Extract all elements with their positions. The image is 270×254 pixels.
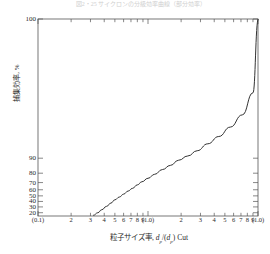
figure-container: 図2・25 サイクロンの分級効率曲線（部分効率） 100908070605040… [0,0,270,254]
x-tick-label: (0.1) [32,216,44,223]
y-tick-label: 80 [14,169,36,177]
plot-area: 1009080706050403020 (0.1)23456789(1.0)23… [0,0,270,254]
x-tick-label: 8 [246,216,249,223]
x-axis-tick-labels: (0.1)23456789(1.0)23456789(1.0) [0,216,270,228]
x-tick-label: 4 [213,216,216,223]
y-axis-label: 捕集効率, % [11,43,21,123]
plot-frame [38,19,258,216]
x-tick-label: 6 [232,216,235,223]
x-tick-label: 6 [122,216,125,223]
x-tick-label: 7 [129,216,132,223]
x-tick-label: 5 [113,216,116,223]
efficiency-curve [94,19,258,215]
x-tick-label: 2 [69,216,72,223]
x-axis-label: 粒子サイズ率, dp/(dp) Cut [38,231,260,244]
x-axis-label-slash: /( [162,233,167,242]
x-tick-label: 3 [89,216,92,223]
x-tick-label: 4 [103,216,106,223]
x-tick-label: 5 [223,216,226,223]
y-tick-label: 90 [14,154,36,162]
x-tick-label: 2 [179,216,182,223]
x-tick-label: 3 [199,216,202,223]
x-tick-label: (1.0) [142,216,154,223]
x-axis-label-cut: ) Cut [173,233,188,242]
x-tick-label: 7 [239,216,242,223]
x-tick-label: 8 [136,216,139,223]
y-tick-label: 100 [14,15,36,23]
x-tick-label: (1.0) [252,216,264,223]
x-axis-label-jp: 粒子サイズ率, [110,233,156,242]
